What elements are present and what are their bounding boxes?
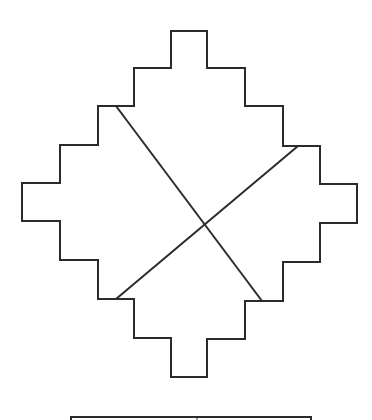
diagram-canvas [0,0,372,420]
diagonal-line-1 [116,106,262,301]
diagonal-line-2 [116,146,298,299]
